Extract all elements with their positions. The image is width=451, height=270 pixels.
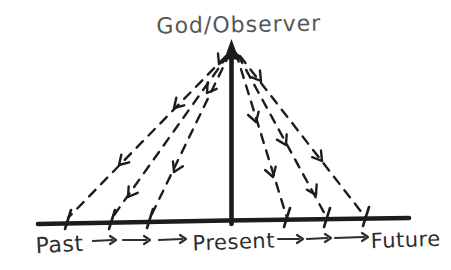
observer-rays-left <box>68 53 230 218</box>
observer-ray-left-outer <box>68 56 226 218</box>
time-flow-arrow <box>335 233 368 241</box>
observer-ray-left-inner <box>150 53 230 218</box>
time-flow-arrow <box>307 234 331 242</box>
diagram-canvas: God/Observer <box>0 0 451 270</box>
present-arrow-head-icon <box>224 39 240 61</box>
time-flow-arrow <box>159 235 186 243</box>
time-flow-arrows-right <box>278 233 368 243</box>
time-flow-arrow <box>93 236 116 244</box>
diagram-stage: God/Observer <box>0 0 451 270</box>
observer-rays-right <box>236 53 366 218</box>
timeline-tick <box>147 209 153 228</box>
diagram-title: God/Observer <box>156 11 321 39</box>
ray-arrowhead <box>248 112 261 124</box>
past-label: Past <box>35 231 84 258</box>
timeline-tick <box>65 210 71 229</box>
timeline-tick <box>109 210 115 229</box>
present-label: Present <box>192 229 275 256</box>
future-label: Future <box>370 227 441 253</box>
time-flow-arrow <box>123 236 150 244</box>
time-flow-arrows-left <box>93 235 186 244</box>
time-flow-arrow <box>278 235 303 243</box>
timeline-axis <box>38 207 409 229</box>
present-to-observer-arrow <box>224 39 240 224</box>
timeline-line <box>38 218 409 224</box>
